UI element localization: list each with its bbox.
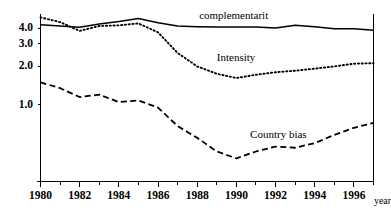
chart-axes <box>37 14 374 187</box>
y-tick-label: 2.0 <box>3 60 33 72</box>
x-tick-label: 1988 <box>177 190 217 202</box>
y-tick-label: 1.0 <box>3 99 33 111</box>
x-tick-label: 1986 <box>138 190 178 202</box>
series-label-country-bias: Country bias <box>250 129 307 140</box>
x-tick-label: 1984 <box>99 190 139 202</box>
x-tick-label: 1982 <box>60 190 100 202</box>
x-tick-label: 1992 <box>256 190 296 202</box>
chart-series-group <box>41 17 374 158</box>
y-tick-label: 4.0 <box>3 22 33 34</box>
series-label-intensity: Intensity <box>217 52 256 63</box>
series-label-complementarit: complementarit <box>199 10 268 21</box>
x-tick-label: 1996 <box>334 190 374 202</box>
x-tick-label: 1990 <box>216 190 256 202</box>
x-axis-title: year <box>374 196 391 206</box>
x-tick-label: 1980 <box>21 190 61 202</box>
series-line-country-bias <box>41 82 374 158</box>
y-tick-label: 3.0 <box>3 38 33 50</box>
x-tick-label: 1994 <box>295 190 335 202</box>
